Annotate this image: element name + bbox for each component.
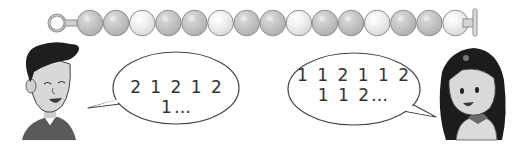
gray-bead: [391, 10, 417, 36]
gray-bead: [260, 10, 286, 36]
gray-bead: [103, 10, 129, 36]
gray-bead: [338, 10, 364, 36]
gray-bead: [312, 10, 338, 36]
right-speech-line-1: 1 1 2 1 1 2: [292, 65, 416, 85]
white-bead: [364, 10, 390, 36]
gray-bead: [182, 10, 208, 36]
white-bead: [208, 10, 234, 36]
white-bead: [286, 10, 312, 36]
gray-bead: [234, 10, 260, 36]
white-bead: [130, 10, 156, 36]
gray-bead: [417, 10, 443, 36]
girl-character: [440, 48, 506, 140]
right-speech-line-2: 1 1 2…: [292, 85, 416, 105]
illustration-scene: 2 1 2 1 2 1… 1 1 2 1 1 2 1 1 2…: [0, 0, 521, 152]
right-speech-text: 1 1 2 1 1 2 1 1 2…: [292, 65, 416, 105]
bead-row: [77, 10, 468, 36]
clasp-ring-icon: [49, 15, 77, 31]
gray-bead: [77, 10, 103, 36]
boy-character: [22, 42, 79, 140]
gray-bead: [156, 10, 182, 36]
left-speech-text: 2 1 2 1 2 1…: [118, 77, 236, 117]
necklace-and-characters: [0, 0, 521, 152]
